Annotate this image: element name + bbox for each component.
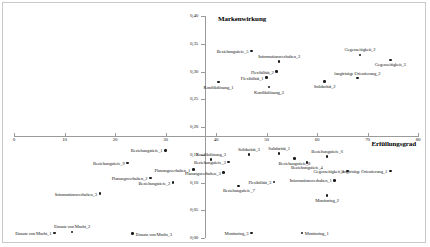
data-point (164, 149, 167, 152)
x-tick-label: 30 (156, 137, 176, 142)
y-tick-label: 0,30 (176, 69, 198, 74)
data-point (265, 76, 268, 79)
y-tick-label: 0,25 (176, 96, 198, 101)
data-point (275, 70, 278, 73)
data-point-label: Beziehungstiefe_1 (131, 148, 163, 153)
y-tick-label: 0,15 (176, 152, 198, 157)
y-tick (201, 99, 205, 100)
y-tick-label: 0,35 (176, 41, 198, 46)
data-point-label: langfristige Orientierung_1 (341, 168, 387, 173)
data-point (301, 232, 304, 235)
data-point-label: Beziehungstiefe_7 (223, 188, 255, 193)
data-point-label: langfristige Orientierung_2 (334, 71, 380, 76)
data-point-label: Konfliktlösung_3 (196, 152, 226, 157)
data-point (99, 192, 102, 195)
chart-page: Markenwirkung Erfüllungsgrad 0,400,350,3… (0, 0, 430, 247)
data-point-label: Flexibilität_3 (248, 179, 271, 184)
x-tick-label: 0 (4, 137, 24, 142)
y-axis-line (205, 16, 206, 238)
data-point (389, 59, 392, 62)
data-point (172, 181, 175, 184)
x-tick-label: 60 (307, 137, 327, 142)
data-point-label: Solidarität_2 (314, 84, 336, 89)
data-point-label: Konfliktlösung_2 (254, 90, 284, 95)
y-axis-title: Markenwirkung (218, 15, 266, 23)
data-point-label: Informationsverhalten_2 (258, 54, 300, 59)
data-point (323, 80, 326, 83)
data-point (237, 185, 240, 188)
data-point-label: Monitoring_1 (305, 231, 329, 236)
scatter-plot: Markenwirkung Erfüllungsgrad 0,400,350,3… (6, 6, 424, 241)
data-point (356, 77, 359, 80)
data-point-label: Beziehungstiefe_3 (194, 159, 226, 164)
data-point-label: Solidarität_3 (238, 147, 260, 152)
data-point (131, 232, 134, 235)
y-tick (201, 238, 205, 239)
data-point (359, 54, 362, 57)
y-tick (201, 210, 205, 211)
data-point-label: Beziehungstiefe_6 (311, 149, 343, 154)
data-point-label: Solidarität_1 (268, 146, 290, 151)
data-point (326, 194, 329, 197)
data-point-label: Gegenseitigkeit_1 (313, 168, 344, 173)
data-point (293, 157, 296, 160)
data-point-label: Beziehungstiefe_2 (138, 180, 170, 185)
x-tick-label: 50 (257, 137, 277, 142)
x-tick-label: 40 (206, 137, 226, 142)
data-point (126, 162, 129, 165)
data-point-label: Einsatz von Macht_1 (15, 231, 51, 236)
y-tick-label: 0,10 (176, 180, 198, 185)
data-point-label: Beziehungstiefe_5 (217, 48, 249, 53)
y-tick-label: 0,05 (176, 207, 198, 212)
data-point-label: Konfliktlösung_1 (204, 85, 234, 90)
data-point (250, 232, 253, 235)
data-point-label: Monitoring_3 (225, 231, 249, 236)
data-point (149, 177, 152, 180)
y-tick (201, 183, 205, 184)
data-point-label: Einsatz von Macht_2 (54, 224, 90, 229)
y-tick-label: 0,00 (176, 235, 198, 240)
data-point (278, 60, 281, 63)
data-point (53, 232, 56, 235)
data-point (389, 170, 392, 173)
data-point-label: Flexibilität_2 (251, 69, 274, 74)
data-point (71, 231, 74, 234)
data-point (333, 179, 336, 182)
y-tick (201, 127, 205, 128)
data-point-label: Gegenseitigkeit_3 (375, 62, 406, 67)
data-point (326, 155, 329, 158)
data-point-label: Monitoring_2 (315, 198, 339, 203)
data-point-label: Einsatz von Macht_3 (136, 231, 172, 236)
data-point (227, 161, 230, 164)
data-point (278, 152, 281, 155)
data-point-label: Gegenseitigkeit_2 (344, 47, 375, 52)
data-point-label: Informationsverhalten_1 (290, 178, 332, 183)
data-point-label: Beziehungstiefe_9 (93, 161, 125, 166)
x-tick-label: 20 (105, 137, 125, 142)
y-tick (201, 44, 205, 45)
data-point (268, 86, 271, 89)
data-point (306, 161, 309, 164)
y-tick (201, 72, 205, 73)
data-point-label: Planungsverhalten_3 (185, 170, 221, 175)
y-tick-label: 0,40 (176, 13, 198, 18)
data-point-label: Informationsverhalten_3 (55, 191, 97, 196)
data-point-label: Flexibilität_1 (241, 75, 264, 80)
data-point (250, 50, 253, 53)
data-point (222, 171, 225, 174)
data-point (217, 81, 220, 84)
data-point (273, 181, 276, 184)
data-point (248, 153, 251, 156)
x-tick-label: 70 (358, 137, 378, 142)
x-tick-label: 10 (55, 137, 75, 142)
x-tick-label: 80 (408, 137, 428, 142)
y-tick (201, 16, 205, 17)
y-tick-label: 0,20 (176, 124, 198, 129)
